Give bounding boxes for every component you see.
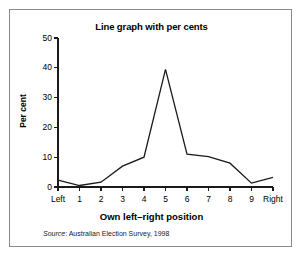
- x-axis-tick-marks: [58, 187, 273, 191]
- figure-frame: Line graph with per cents Per cent Own l…: [9, 9, 292, 247]
- source-text: : Australian Election Survey, 1998: [65, 230, 169, 237]
- y-axis-tick-marks: [54, 38, 58, 187]
- chart-area: Line graph with per cents Per cent Own l…: [10, 10, 293, 248]
- source-note: Source: Australian Election Survey, 1998: [43, 230, 169, 237]
- axes-lines: [58, 38, 273, 187]
- source-label: Source: [43, 230, 65, 237]
- plot-svg: [10, 10, 293, 248]
- data-series-line: [58, 69, 273, 185]
